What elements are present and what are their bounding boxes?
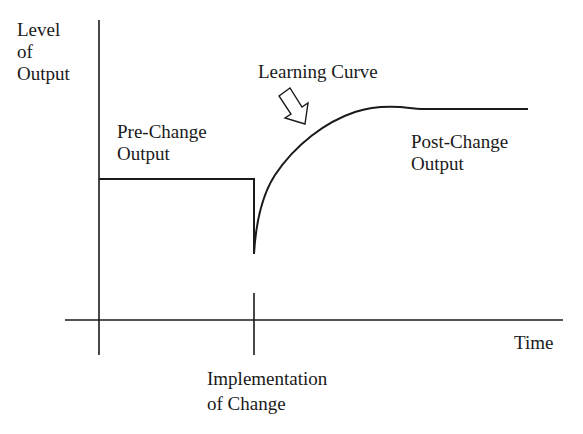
hollow-arrow-icon bbox=[279, 88, 308, 124]
post-change-label: Post-Change Output bbox=[411, 131, 508, 175]
implementation-label: Implementation of Change bbox=[207, 366, 327, 416]
y-axis-label: Level of Output bbox=[17, 19, 70, 85]
x-axis-label: Time bbox=[514, 332, 553, 354]
implementation-line1: Implementation bbox=[207, 366, 327, 391]
learning-curve-label: Learning Curve bbox=[258, 61, 378, 83]
pre-change-line1: Pre-Change bbox=[117, 121, 207, 143]
pre-change-line2: Output bbox=[117, 143, 207, 165]
y-label-line1: Level bbox=[17, 19, 70, 41]
post-change-line2: Output bbox=[411, 153, 508, 175]
post-change-line1: Post-Change bbox=[411, 131, 508, 153]
pre-change-label: Pre-Change Output bbox=[117, 121, 207, 165]
y-label-line3: Output bbox=[17, 63, 70, 85]
implementation-line2: of Change bbox=[207, 391, 327, 416]
y-label-line2: of bbox=[17, 41, 70, 63]
